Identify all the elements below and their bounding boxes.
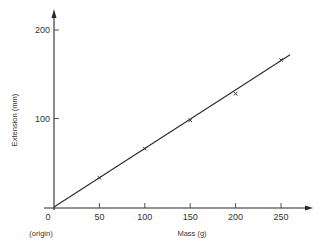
x-tick-label: 150 [183,212,198,222]
x-axis-arrow-icon [305,206,313,211]
extension-vs-mass-chart: 050100150200250100200 Extension (mm) Mas… [0,0,320,252]
x-tick-label: 0 [45,212,50,222]
y-axis-arrow-icon [52,9,57,18]
x-axis-label: Mass (g) [177,229,207,238]
data-point-marker [234,92,238,96]
y-axis-label: Extension (mm) [10,93,19,146]
x-tick-label: 200 [228,212,243,222]
origin-label: (origin) [29,229,53,238]
data-point-marker [98,176,102,180]
x-tick-label: 50 [94,212,104,222]
best-fit-line [54,55,290,207]
data-series [54,55,290,207]
y-tick-label: 200 [35,25,50,35]
data-point-marker [143,147,147,151]
x-tick-label: 250 [273,212,288,222]
axis-ticks: 050100150200250100200 [35,25,289,222]
y-tick-label: 100 [35,114,50,124]
x-tick-label: 100 [137,212,152,222]
axes [44,9,313,211]
